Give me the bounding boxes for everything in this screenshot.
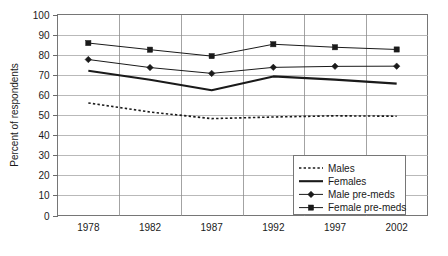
- data-point-marker: [147, 47, 152, 52]
- y-tick-label: 100: [33, 10, 50, 21]
- legend-label: Male pre-meds: [328, 189, 395, 200]
- x-tick-label: 2002: [386, 222, 409, 233]
- legend-label: Females: [328, 176, 366, 187]
- legend-label: Males: [328, 163, 355, 174]
- y-tick-label: 30: [38, 150, 50, 161]
- y-tick-label: 80: [38, 50, 50, 61]
- y-tick-label: 50: [38, 110, 50, 121]
- y-tick-label: 60: [38, 90, 50, 101]
- y-tick-label: 0: [44, 211, 50, 222]
- y-tick-label: 20: [38, 170, 50, 181]
- line-chart: 0102030405060708090100 19781982198719921…: [0, 0, 448, 256]
- data-point-marker: [332, 45, 337, 50]
- legend-label: Female pre-meds: [328, 202, 406, 213]
- y-tick-label: 70: [38, 70, 50, 81]
- data-point-marker: [209, 54, 214, 59]
- chart-legend: MalesFemalesMale pre-medsFemale pre-meds: [294, 156, 407, 215]
- x-tick-label: 1978: [77, 222, 100, 233]
- x-tick-label: 1987: [201, 222, 224, 233]
- data-point-marker: [271, 42, 276, 47]
- x-tick-label: 1982: [139, 222, 162, 233]
- chart-container: 0102030405060708090100 19781982198719921…: [0, 0, 448, 256]
- y-axis-title: Percent of respondents: [9, 63, 20, 166]
- y-tick-label: 40: [38, 130, 50, 141]
- data-point-marker: [86, 40, 91, 45]
- y-tick-label: 10: [38, 190, 50, 201]
- data-point-marker: [308, 205, 313, 210]
- data-point-marker: [394, 47, 399, 52]
- x-tick-label: 1997: [324, 222, 347, 233]
- x-tick-label: 1992: [262, 222, 285, 233]
- y-tick-label: 90: [38, 30, 50, 41]
